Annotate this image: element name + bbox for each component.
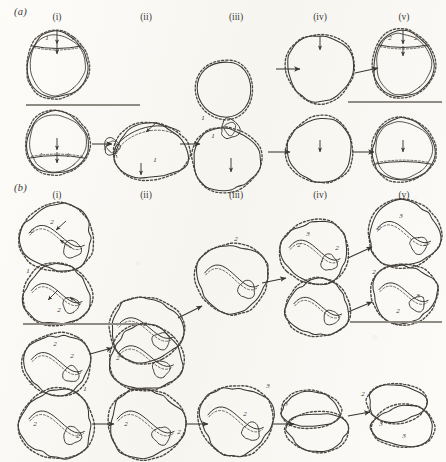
- column-header-b-i: (i): [53, 190, 62, 200]
- arrow-b-bot-i-to-ii: [90, 348, 112, 354]
- column-header-a-iii: (iii): [229, 12, 243, 22]
- arrow-b-top-iv-to-v: [348, 247, 372, 258]
- column-header-b-iii: (iii): [229, 190, 243, 200]
- loop-a-i-bottom: [26, 110, 91, 175]
- arrow-b-top-iii-to-iv: [262, 278, 286, 283]
- column-header-a-v: (v): [398, 12, 409, 22]
- column-header-b-v: (v): [398, 190, 409, 200]
- loop-b-i-upper: [19, 202, 94, 272]
- panel-letter-a: (a): [14, 6, 27, 17]
- arrow-b-top-ii-to-iii: [178, 306, 202, 318]
- feature-arrow-12: [56, 221, 66, 230]
- loop-a-iv-bottom: [285, 115, 352, 183]
- loop-a-iii: [192, 60, 263, 193]
- loop-b-iii-mid: [194, 243, 268, 315]
- loop-b-v-lower: [371, 264, 439, 325]
- loop-b-bot-iv: [281, 390, 349, 453]
- loop-b-bot-ii-lower: [108, 389, 186, 461]
- loop-b-bot-i-upper: [22, 332, 91, 396]
- column-header-a-i: (i): [53, 12, 62, 22]
- column-header-b-ii: (ii): [140, 190, 152, 200]
- loop-b-bot-iii: [198, 386, 275, 457]
- loop-b-bot-ii-upper: [109, 324, 184, 391]
- loop-b-i-lower: [22, 263, 93, 326]
- loop-b-iv-lower: [284, 277, 350, 336]
- panel-letter-b: (b): [14, 182, 27, 193]
- column-header-a-iv: (iv): [313, 12, 327, 22]
- loop-b-bot-i-lower: [18, 388, 94, 460]
- loop-b-bot-v: [366, 384, 435, 448]
- feature-arrow-14: [48, 290, 58, 300]
- loop-a-v-bottom: [371, 117, 436, 182]
- figure-linework: [0, 0, 446, 462]
- figure-root: (a) (b) (i) (ii) (iii) (iv) (v) (i) (ii)…: [0, 0, 446, 462]
- loop-a-i-top: [27, 30, 90, 99]
- column-header-a-ii: (ii): [140, 12, 152, 22]
- arrow-b-bot2-iv-to-v: [348, 412, 370, 416]
- loop-b-v-upper: [368, 199, 442, 269]
- loop-b-iv-upper: [280, 219, 349, 285]
- column-header-b-iv: (iv): [313, 190, 327, 200]
- loop-a-v-top: [372, 29, 436, 98]
- arrow-b-mid-iv-to-v: [348, 302, 372, 312]
